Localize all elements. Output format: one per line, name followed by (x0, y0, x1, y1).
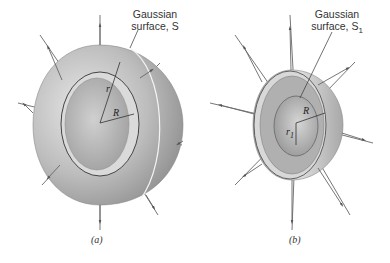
gauss-law-diagram (0, 0, 390, 263)
gaussian-surface-label-a: Gaussian surface, S (127, 8, 183, 32)
leader-line-a (130, 30, 138, 48)
label-sub-b: 1 (358, 26, 362, 35)
panel-b (210, 15, 373, 230)
charged-sphere-a (65, 78, 129, 170)
caption-a: (a) (91, 234, 103, 245)
gaussian-surface-label-b: Gaussian surface, S1 (308, 8, 366, 37)
label-line1-a: Gaussian (127, 8, 183, 20)
label-line2-a: surface, S (127, 20, 183, 32)
panel-a (18, 15, 183, 230)
symbol-R-b: R (303, 105, 309, 116)
symbol-r-a: r (106, 83, 110, 94)
label-line2-b: surface, S (311, 20, 358, 32)
label-line1-b: Gaussian (308, 8, 366, 20)
symbol-r1-sub: 1 (290, 131, 294, 140)
symbol-R-a: R (113, 107, 119, 118)
caption-b: (b) (289, 234, 301, 245)
symbol-r1-b: r1 (286, 126, 294, 140)
